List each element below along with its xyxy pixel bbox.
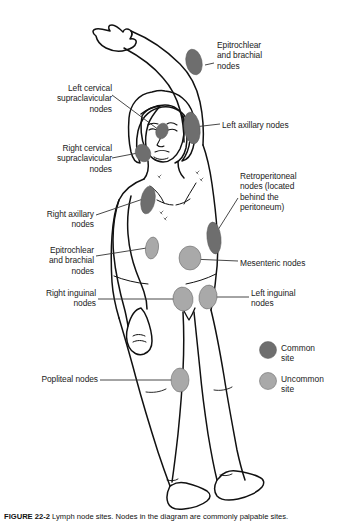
eyebrow-right — [167, 123, 177, 125]
label-right-axillary: Right axillary nodes — [18, 209, 94, 230]
leader-epitrochlear-upper — [205, 63, 214, 65]
legend-label-uncommon-site: Uncommon site — [281, 374, 324, 395]
leader-epitrochlear-lower — [96, 247, 153, 256]
label-right-inguinal: Right inguinal nodes — [18, 288, 96, 309]
right-hand-outline — [127, 308, 152, 355]
legend-swatches-group — [260, 342, 277, 390]
arm-inner-edge — [124, 48, 184, 142]
hip-line-right — [186, 274, 216, 284]
label-retroperitoneal: Retroperitoneal nodes (located behind th… — [240, 171, 344, 213]
abdomen-stipple — [158, 171, 203, 220]
node-epitrochlear-right — [144, 236, 160, 260]
figure-caption: FIGURE 22-2 Lymph node sites. Nodes in t… — [4, 512, 348, 526]
legend-swatch-common-site — [260, 342, 277, 359]
lymph-node-markers-group — [132, 48, 222, 392]
node-mesenteric — [179, 246, 201, 270]
knee-line-right — [146, 389, 166, 392]
left-leg-outer — [211, 310, 245, 480]
node-popliteal — [171, 368, 189, 392]
label-left-inguinal: Left inguinal nodes — [251, 288, 341, 309]
neck-right — [178, 162, 184, 178]
legend-swatch-uncommon-site — [260, 373, 277, 390]
knee-line-left — [214, 387, 232, 390]
right-leg-outer — [119, 318, 170, 486]
label-epitrochlear-brachial-upper: Epitrochlear and brachial nodes — [217, 40, 327, 71]
node-left-cervical — [154, 121, 171, 140]
right-hand-fingers — [133, 335, 145, 337]
right-foot-outline — [167, 483, 210, 510]
figure-caption-number: FIGURE 22-2 — [4, 512, 50, 521]
hand-outline — [93, 25, 136, 51]
left-leg-inner — [194, 312, 217, 480]
chin-line — [154, 157, 168, 159]
label-left-axillary: Left axillary nodes — [222, 120, 342, 130]
right-leg-inner — [172, 312, 184, 482]
hip-line-left — [114, 276, 148, 284]
leader-left-cervical — [112, 95, 163, 133]
leader-retroperitoneal — [216, 198, 238, 233]
label-right-cervical-supraclavicular: Right cervical supraclavicular nodes — [13, 143, 112, 174]
chest-contour-right — [184, 183, 196, 204]
right-arm-outer — [113, 200, 128, 326]
bust-line-left — [157, 200, 173, 205]
lymph-node-figure: Epitrochlear and brachial nodesLeft cerv… — [0, 0, 348, 526]
right-hand-fingers2 — [133, 341, 146, 343]
torso-left-contour — [111, 179, 144, 318]
bust-line-right — [176, 199, 190, 205]
leader-lines-group — [96, 63, 249, 380]
label-mesenteric: Mesenteric nodes — [240, 258, 348, 268]
eyebrow-left — [148, 123, 158, 125]
legend-label-common-site: Common site — [281, 343, 315, 364]
figure-caption-body: Lymph node sites. Nodes in the diagram a… — [50, 512, 288, 521]
mouth — [155, 151, 169, 153]
label-left-cervical-supraclavicular: Left cervical supraclavicular nodes — [16, 83, 112, 114]
label-popliteal: Popliteal nodes — [22, 374, 98, 384]
node-right-inguinal — [171, 286, 194, 313]
neck-left — [144, 161, 148, 179]
body-outline-group — [93, 25, 264, 509]
label-epitrochlear-brachial-lower: Epitrochlear and brachial nodes — [18, 245, 94, 276]
eye-right — [168, 129, 177, 131]
